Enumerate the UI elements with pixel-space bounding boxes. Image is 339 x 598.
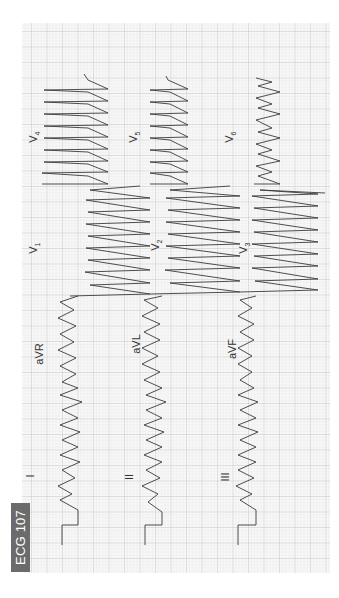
lead-label-aVF: aVF: [226, 339, 238, 359]
lead-label-III: III: [219, 472, 231, 481]
lead-label-II: II: [123, 474, 135, 480]
lead-label-V2: V2: [149, 239, 163, 250]
lead-label-V5: V5: [127, 131, 141, 142]
lead-label-I: I: [24, 474, 36, 477]
figure-label-badge: ECG 107: [11, 503, 30, 572]
lead-label-V6: V6: [223, 131, 237, 142]
lead-label-aVR: aVR: [33, 343, 45, 364]
lead-label-V4: V4: [27, 131, 41, 142]
ecg-strip: [0, 0, 339, 598]
figure-label: ECG 107: [13, 510, 28, 565]
lead-label-V3: V3: [237, 242, 251, 253]
lead-label-V1: V1: [27, 242, 41, 253]
lead-label-aVL: aVL: [130, 334, 142, 354]
